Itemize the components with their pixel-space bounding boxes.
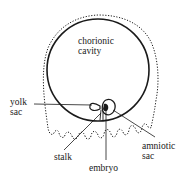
embryo-diagram: chorionic cavity yolk sac stalk embryo a… [0,0,196,186]
label-amniotic-line2: sac [142,151,175,161]
label-chorionic-line1: chorionic [78,36,114,46]
yolk-sac-shape [90,103,100,110]
leader-amniotic-sac [113,110,155,137]
label-amniotic-sac: amniotic sac [142,141,175,161]
label-embryo: embryo [89,163,118,173]
label-stalk-line1: stalk [54,152,72,162]
label-amniotic-line1: amniotic [142,141,175,151]
label-yolk-line2: sac [10,107,27,117]
label-chorionic-line2: cavity [78,46,114,56]
label-chorionic-cavity: chorionic cavity [78,36,114,56]
leader-yolk-sac [34,104,92,105]
label-yolk-sac: yolk sac [10,97,27,117]
label-yolk-line1: yolk [10,97,27,107]
label-embryo-line1: embryo [89,163,118,173]
chorionic-cavity-outline [47,19,149,121]
label-stalk: stalk [54,152,72,162]
stalk-shape [100,110,103,120]
